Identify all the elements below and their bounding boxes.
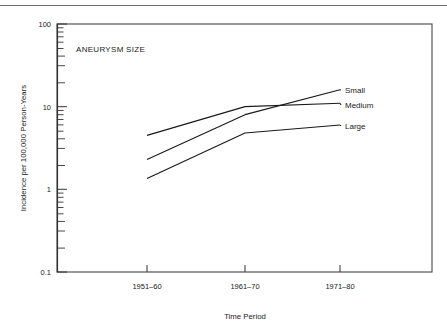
y-tick-label-10: 10 <box>43 103 51 112</box>
series-label-large: Large <box>345 122 366 131</box>
figure-container: 100 10 1 0.1 Incidence per 100,000 Perso… <box>0 0 447 334</box>
y-tick-label-100: 100 <box>38 20 51 29</box>
x-axis-title: Time Period <box>224 312 266 321</box>
series-label-leaders <box>340 90 341 126</box>
x-axis-ticks <box>147 265 340 272</box>
plot-frame <box>57 24 432 272</box>
series-label-medium: Medium <box>345 101 374 110</box>
x-tick-label-1961-70: 1961–70 <box>230 282 259 291</box>
y-axis-title: Incidence per 100,000 Person-Years <box>19 85 28 211</box>
series-line-medium <box>147 103 340 135</box>
leader-large <box>340 125 341 126</box>
x-tick-label-1971-80: 1971–80 <box>325 282 354 291</box>
y-tick-label-0.1: 0.1 <box>41 268 51 277</box>
series-label-small: Small <box>345 86 365 95</box>
series-line-small <box>147 90 340 160</box>
y-tick-label-1: 1 <box>47 185 51 194</box>
plot-annotation-aneurysm-size: ANEURYSM SIZE <box>76 45 145 54</box>
y-axis-minor-ticks <box>57 28 65 248</box>
leader-medium <box>340 103 341 105</box>
aneurysm-incidence-line-chart: 100 10 1 0.1 Incidence per 100,000 Perso… <box>0 0 447 334</box>
series-line-large <box>147 125 340 179</box>
data-series-group <box>147 90 340 179</box>
x-tick-label-1951-60: 1951–60 <box>132 282 161 291</box>
